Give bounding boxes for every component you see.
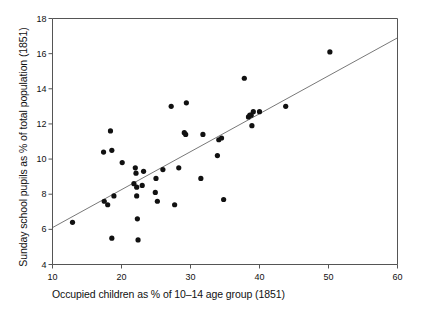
data-point: [176, 165, 181, 170]
data-point: [120, 160, 125, 165]
data-point: [155, 199, 160, 204]
data-point: [105, 202, 110, 207]
x-tick-label: 50: [323, 272, 333, 282]
data-point: [215, 153, 220, 158]
data-point: [111, 193, 116, 198]
data-point: [251, 109, 256, 114]
x-axis-label: Occupied children as % of 10–14 age grou…: [52, 288, 285, 300]
data-point: [160, 167, 165, 172]
data-point: [134, 193, 139, 198]
data-point: [109, 236, 114, 241]
data-point: [135, 216, 140, 221]
data-point: [257, 109, 262, 114]
data-point: [242, 76, 247, 81]
data-point: [200, 132, 205, 137]
data-point: [135, 237, 140, 242]
data-point: [327, 49, 332, 54]
data-point: [140, 183, 145, 188]
scatter-plot-figure: 4681012141618102030405060 Sunday school …: [0, 0, 428, 321]
data-point: [283, 104, 288, 109]
data-point: [108, 128, 113, 133]
data-point: [219, 135, 224, 140]
y-axis-label: Sunday school pupils as % of total popul…: [12, 12, 34, 282]
axes: [49, 19, 398, 269]
x-tick-label: 30: [185, 272, 195, 282]
data-point: [141, 169, 146, 174]
data-point: [101, 149, 106, 154]
data-point: [153, 176, 158, 181]
data-point: [70, 220, 75, 225]
data-point: [133, 165, 138, 170]
data-point: [109, 148, 114, 153]
data-point: [221, 197, 226, 202]
data-point: [183, 132, 188, 137]
x-tick-label: 10: [47, 272, 57, 282]
data-point: [198, 176, 203, 181]
data-point: [169, 104, 174, 109]
data-point: [153, 190, 158, 195]
data-point: [184, 100, 189, 105]
plot-canvas: [0, 0, 428, 321]
data-point: [134, 185, 139, 190]
data-point: [172, 202, 177, 207]
x-tick-label: 60: [392, 272, 402, 282]
x-tick-label: 40: [254, 272, 264, 282]
x-tick-label: 20: [116, 272, 126, 282]
data-point: [133, 171, 138, 176]
data-point: [249, 123, 254, 128]
